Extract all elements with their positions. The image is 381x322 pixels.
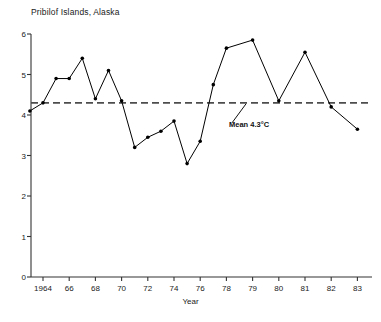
data-point-marker bbox=[198, 140, 202, 144]
data-point-marker bbox=[146, 135, 150, 139]
y-tick-label: 4 bbox=[12, 111, 26, 120]
x-tick-label: 66 bbox=[65, 284, 74, 293]
x-tick-label: 83 bbox=[353, 284, 362, 293]
data-point-marker bbox=[185, 162, 189, 166]
y-tick-label: 2 bbox=[12, 192, 26, 201]
mean-line-annotation-label: Mean 4.3°C bbox=[229, 120, 269, 129]
data-point-marker bbox=[277, 99, 281, 103]
x-axis-title: Year bbox=[0, 297, 381, 306]
data-point-marker bbox=[28, 109, 32, 113]
data-point-marker bbox=[212, 83, 216, 87]
chart-figure: Pribilof Islands, Alaska Year 0123456 19… bbox=[0, 0, 381, 322]
x-tick-label: 74 bbox=[170, 284, 179, 293]
data-point-marker bbox=[172, 119, 176, 123]
data-point-marker bbox=[303, 50, 307, 54]
x-tick-label: 68 bbox=[91, 284, 100, 293]
data-point-marker bbox=[133, 146, 137, 150]
axes bbox=[31, 34, 372, 277]
series-line-0 bbox=[30, 40, 358, 164]
x-tick-label: 1964 bbox=[34, 284, 52, 293]
chart-plot-area bbox=[0, 0, 381, 322]
data-point-marker bbox=[120, 99, 124, 103]
data-point-marker bbox=[67, 77, 71, 81]
x-tick-label: 76 bbox=[196, 284, 205, 293]
data-point-marker bbox=[329, 105, 333, 109]
y-tick-label: 0 bbox=[12, 273, 26, 282]
x-tick-label: 70 bbox=[117, 284, 126, 293]
data-point-marker bbox=[54, 77, 58, 81]
data-point-marker bbox=[356, 127, 360, 131]
data-point-marker bbox=[41, 101, 45, 105]
x-tick-label: 80 bbox=[274, 284, 283, 293]
y-tick-label: 3 bbox=[12, 151, 26, 160]
data-point-marker bbox=[107, 69, 111, 73]
x-tick-label: 82 bbox=[327, 284, 336, 293]
chart-title: Pribilof Islands, Alaska bbox=[31, 7, 120, 17]
data-point-marker bbox=[94, 97, 98, 101]
data-point-marker bbox=[159, 129, 163, 133]
data-point-marker bbox=[225, 46, 229, 50]
data-point-marker bbox=[81, 57, 85, 61]
x-tick-label: 72 bbox=[143, 284, 152, 293]
x-tick-label: 78 bbox=[222, 284, 231, 293]
x-tick-label: 79 bbox=[248, 284, 257, 293]
y-tick-label: 1 bbox=[12, 232, 26, 241]
x-tick-label: 81 bbox=[301, 284, 310, 293]
y-tick-label: 5 bbox=[12, 70, 26, 79]
data-point-marker bbox=[251, 38, 255, 42]
y-tick-label: 6 bbox=[12, 30, 26, 39]
